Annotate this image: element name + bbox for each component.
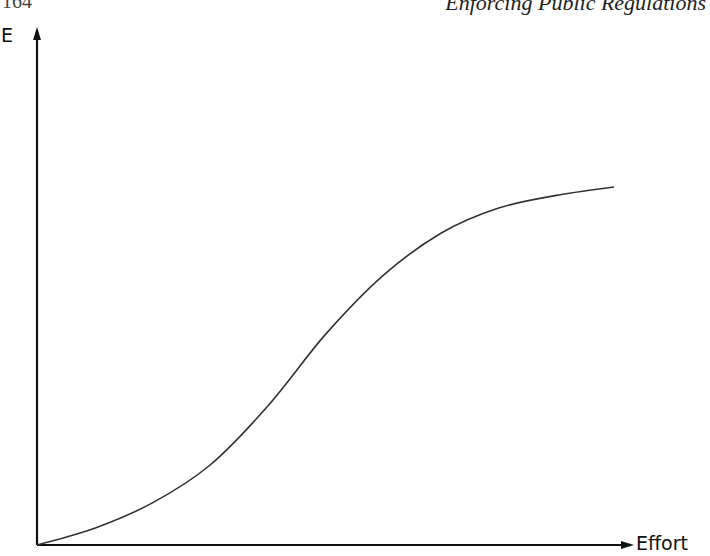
chart-plot: [0, 0, 710, 556]
x-axis-arrow-icon: [621, 541, 634, 549]
y-axis-arrow-icon: [33, 27, 41, 40]
data-curve: [37, 187, 614, 545]
